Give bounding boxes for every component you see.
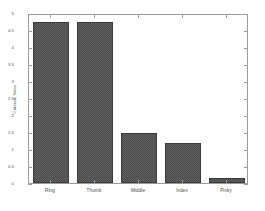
- x-tick-mark-top: [50, 14, 51, 18]
- x-tick-mark: [138, 180, 139, 184]
- y-tick-label: 4.5: [0, 29, 14, 33]
- x-tick-mark-top: [94, 14, 95, 18]
- x-tick-label-index: Index: [176, 188, 188, 193]
- y-tick-mark: [28, 65, 32, 66]
- x-tick-label-middle: Middle: [131, 188, 145, 193]
- bar-thumb: [77, 22, 112, 183]
- y-axis-title: Criterion Value: [12, 85, 17, 114]
- x-tick-mark: [50, 180, 51, 184]
- y-tick-mark: [28, 99, 32, 100]
- y-tick-label: 3.5: [0, 63, 14, 67]
- y-tick-label: 0: [0, 182, 14, 186]
- plot-area: [28, 14, 248, 184]
- y-tick-mark-right: [244, 14, 248, 15]
- y-tick-label: 2: [0, 114, 14, 118]
- x-tick-label-thumb: Thumb: [87, 188, 102, 193]
- y-tick-mark: [28, 184, 32, 185]
- y-tick-label: 1.5: [0, 131, 14, 135]
- y-tick-mark-right: [244, 48, 248, 49]
- y-tick-mark: [28, 14, 32, 15]
- x-tick-mark: [226, 180, 227, 184]
- y-tick-mark-right: [244, 150, 248, 151]
- x-tick-mark-top: [138, 14, 139, 18]
- y-tick-mark-right: [244, 167, 248, 168]
- y-tick-mark-right: [244, 31, 248, 32]
- y-tick-label: 5: [0, 12, 14, 16]
- y-tick-mark-right: [244, 65, 248, 66]
- x-tick-mark-top: [182, 14, 183, 18]
- y-tick-mark: [28, 48, 32, 49]
- x-tick-mark: [94, 180, 95, 184]
- y-tick-mark: [28, 82, 32, 83]
- y-tick-mark: [28, 133, 32, 134]
- x-tick-label-ring: Ring: [45, 188, 55, 193]
- bar-index: [165, 143, 200, 183]
- y-tick-mark-right: [244, 116, 248, 117]
- y-tick-label: 0.5: [0, 165, 14, 169]
- bar-middle: [121, 133, 156, 183]
- bar-ring: [33, 22, 68, 184]
- bar-chart-figure: 00.511.522.533.544.55 RingThumbMiddleInd…: [0, 0, 265, 211]
- y-tick-mark: [28, 116, 32, 117]
- x-tick-label-pinky: Pinky: [220, 188, 232, 193]
- y-tick-mark: [28, 31, 32, 32]
- x-tick-mark: [182, 180, 183, 184]
- y-tick-mark: [28, 150, 32, 151]
- y-tick-mark-right: [244, 133, 248, 134]
- y-tick-label: 1: [0, 148, 14, 152]
- y-tick-mark-right: [244, 82, 248, 83]
- bar-series: [29, 15, 247, 183]
- x-tick-mark-top: [226, 14, 227, 18]
- y-tick-label: 4: [0, 46, 14, 50]
- y-tick-mark: [28, 167, 32, 168]
- y-tick-mark-right: [244, 99, 248, 100]
- y-tick-mark-right: [244, 184, 248, 185]
